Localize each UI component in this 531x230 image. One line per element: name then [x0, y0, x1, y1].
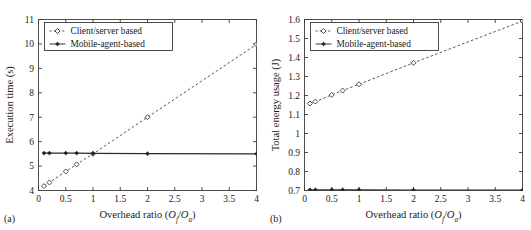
y-tick-label: 1.5: [288, 34, 300, 44]
chart-a-svg: 00.511.522.533.544567891011Execution tim…: [0, 0, 265, 230]
x-tick-label: 4: [254, 194, 259, 204]
y-tick-label: 9: [29, 64, 34, 74]
x-tick-label: 0: [302, 194, 307, 204]
open-diamond-icon: [145, 115, 150, 120]
x-tick-label: 1: [357, 194, 362, 204]
y-tick-label: 0.7: [288, 186, 300, 196]
open-diamond-icon: [411, 60, 416, 65]
subfigure-label: (a): [4, 213, 15, 225]
open-diamond-icon: [74, 162, 79, 167]
open-diamond-icon: [47, 180, 52, 185]
x-tick-label: 3: [200, 194, 205, 204]
legend-entry-label: Mobile-agent-based: [71, 39, 146, 49]
x-tick-label: 4: [520, 194, 525, 204]
chart-b-svg: 00.511.522.533.540.70.80.911.11.21.31.41…: [266, 0, 531, 230]
x-axis-title: Overhead ratio (Of/Oa): [365, 209, 462, 224]
series-mobile-agent: [42, 151, 259, 156]
open-diamond-icon: [340, 88, 345, 93]
figure-container: 00.511.522.533.544567891011Execution tim…: [0, 0, 531, 230]
x-tick-label: 2.5: [435, 194, 447, 204]
y-axis-title: Execution time (s): [4, 66, 16, 144]
y-tick-label: 1.6: [288, 15, 300, 25]
x-tick-label: 1.5: [380, 194, 392, 204]
filled-star-icon: [520, 188, 524, 192]
filled-star-icon: [42, 151, 46, 155]
x-tick-label: 0: [36, 194, 41, 204]
y-tick-label: 7: [29, 113, 34, 123]
legend-entry-label: Client/server based: [337, 26, 409, 36]
legend-entry-label: Client/server based: [71, 26, 143, 36]
y-tick-label: 4: [29, 186, 34, 196]
filled-star-icon: [47, 151, 51, 155]
x-tick-label: 1.5: [114, 194, 126, 204]
x-axis-title: Overhead ratio (Of/Oa): [99, 209, 196, 224]
filled-star-icon: [330, 188, 334, 192]
filled-star-icon: [75, 151, 79, 155]
filled-star-icon: [145, 152, 149, 156]
filled-star-icon: [341, 188, 345, 192]
chart-legend: Client/server basedMobile-agent-based: [45, 23, 173, 51]
chart-panel-b: 00.511.522.533.540.70.80.911.11.21.31.41…: [266, 0, 531, 230]
legend-entry-label: Mobile-agent-based: [337, 39, 412, 49]
filled-star-icon: [308, 188, 312, 192]
y-tick-label: 1.2: [288, 91, 300, 101]
y-tick-label: 0.8: [288, 167, 300, 177]
x-tick-label: 2: [411, 194, 416, 204]
open-diamond-icon: [329, 92, 334, 97]
y-tick-label: 1.3: [288, 72, 300, 82]
x-tick-label: 3.5: [223, 194, 235, 204]
filled-star-icon: [313, 188, 317, 192]
x-tick-label: 3: [466, 194, 471, 204]
open-diamond-icon: [63, 169, 68, 174]
x-tick-label: 2: [145, 194, 150, 204]
filled-star-icon: [357, 188, 361, 192]
y-tick-label: 8: [29, 88, 34, 98]
series-mobile-agent: [308, 188, 525, 193]
x-tick-label: 1: [91, 194, 96, 204]
x-tick-label: 3.5: [489, 194, 501, 204]
subfigure-label: (b): [270, 213, 282, 225]
open-diamond-icon: [41, 184, 46, 189]
series-client-server: [41, 42, 259, 189]
open-diamond-icon: [254, 42, 259, 47]
open-diamond-icon: [313, 99, 318, 104]
open-diamond-icon: [357, 82, 362, 87]
y-tick-label: 1: [295, 129, 300, 139]
x-tick-label: 2.5: [169, 194, 181, 204]
y-tick-label: 5: [29, 161, 34, 171]
x-tick-label: 0.5: [326, 194, 338, 204]
y-tick-label: 10: [25, 39, 35, 49]
filled-star-icon: [64, 151, 68, 155]
filled-star-icon: [254, 152, 258, 156]
y-tick-label: 11: [25, 15, 34, 25]
filled-star-icon: [411, 188, 415, 192]
chart-panel-a: 00.511.522.533.544567891011Execution tim…: [0, 0, 265, 230]
x-tick-label: 0.5: [60, 194, 72, 204]
y-tick-label: 1.4: [288, 53, 300, 63]
y-tick-label: 0.9: [288, 148, 300, 158]
y-tick-label: 6: [29, 137, 34, 147]
y-axis-title: Total energy usage (J): [270, 58, 282, 151]
plot-area: [41, 42, 259, 189]
open-diamond-icon: [307, 101, 312, 106]
chart-legend: Client/server basedMobile-agent-based: [311, 23, 439, 51]
y-tick-label: 1.1: [288, 110, 300, 120]
